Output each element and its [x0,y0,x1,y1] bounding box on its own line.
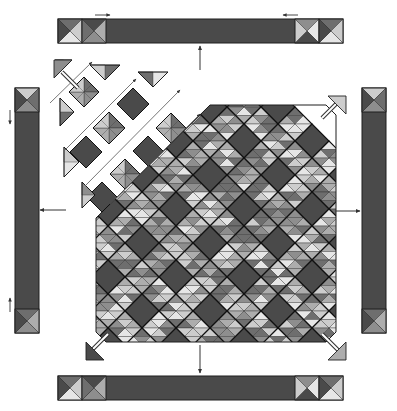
half-square-triangle [346,269,363,278]
half-square-triangle [57,133,74,142]
block-outline [176,73,210,107]
half-square-triangle [346,201,363,210]
half-square-triangle [83,362,100,371]
half-square-triangle [193,90,210,99]
half-square-triangle [159,362,176,371]
half-square-triangle [202,56,219,65]
half-square-triangle [117,82,134,91]
half-square-triangle [108,362,125,371]
half-square-triangle [227,99,244,108]
half-square-triangle [66,260,83,269]
corner-bottom-right-arrow [322,334,346,360]
half-square-triangle [142,354,159,363]
half-square-triangle [151,90,168,99]
half-square-triangle [287,362,304,371]
setting-triangle [90,65,120,80]
half-square-triangle [125,354,142,363]
half-square-triangle [74,362,91,371]
half-square-triangle [66,328,83,337]
half-square-triangle [185,354,202,363]
half-square-triangle [168,362,185,371]
half-square-triangle [159,90,176,99]
half-square-triangle [329,362,346,371]
setting-triangle [82,182,95,208]
half-square-triangle [346,320,363,329]
half-square-triangle [270,345,287,354]
half-square-triangle [151,345,168,354]
half-square-triangle [83,116,100,125]
half-square-triangle [338,209,355,218]
half-square-triangle [202,73,219,82]
half-square-triangle [185,90,202,99]
half-square-triangle [57,269,74,278]
half-square-triangle [210,65,227,74]
half-square-triangle [253,82,270,91]
block-outline [210,73,244,107]
block-outline [193,56,227,90]
on-point-block [278,345,312,379]
half-square-triangle [176,362,193,371]
half-square-triangle [338,218,355,227]
half-square-triangle [304,362,321,371]
half-square-triangle [202,82,219,91]
half-square-triangle [185,73,202,82]
half-square-triangle [261,354,278,363]
half-square-triangle [219,90,236,99]
half-square-triangle [338,269,355,278]
half-square-triangle [346,209,363,218]
half-square-triangle [253,362,270,371]
half-square-triangle [134,82,151,91]
half-square-triangle [244,354,261,363]
on-point-block [244,73,278,107]
half-square-triangle [74,124,91,133]
half-square-triangle [159,82,176,91]
block-outline [142,345,176,379]
half-square-triangle [253,90,270,99]
half-square-triangle [244,90,261,99]
half-square-triangle [100,362,117,371]
half-square-triangle [66,286,83,295]
half-square-triangle [236,90,253,99]
block-outline [227,56,261,90]
half-square-triangle [346,226,363,235]
half-square-triangle [193,345,210,354]
half-square-triangle [312,354,329,363]
half-square-triangle [66,354,83,363]
on-point-block [227,56,261,90]
half-square-triangle [338,286,355,295]
on-point-block [210,345,244,379]
half-square-triangle [244,99,261,108]
half-square-triangle [338,277,355,286]
half-square-triangle [74,218,91,227]
half-square-triangle [83,209,100,218]
half-square-triangle [236,362,253,371]
half-square-triangle [66,209,83,218]
block-outline [176,345,210,379]
half-square-triangle [125,73,142,82]
half-square-triangle [66,133,83,142]
half-square-triangle [57,337,74,346]
half-square-triangle [346,184,363,193]
half-square-triangle [134,345,151,354]
half-square-triangle [66,124,83,133]
block-outline [244,73,278,107]
half-square-triangle [219,82,236,91]
half-square-triangle [108,354,125,363]
half-square-triangle [142,90,159,99]
half-square-triangle [66,345,83,354]
half-square-triangle [193,65,210,74]
solid-square-block [227,56,261,90]
block-outline [210,345,244,379]
half-square-triangle [210,345,227,354]
half-square-triangle [244,82,261,91]
half-square-triangle [176,82,193,91]
half-square-triangle [185,345,202,354]
half-square-triangle [312,362,329,371]
half-square-triangle [159,354,176,363]
half-square-triangle [219,362,236,371]
half-square-triangle [219,354,236,363]
half-square-triangle [185,99,202,108]
half-square-triangle [185,107,202,116]
half-square-triangle [125,362,142,371]
half-square-triangle [355,337,372,346]
